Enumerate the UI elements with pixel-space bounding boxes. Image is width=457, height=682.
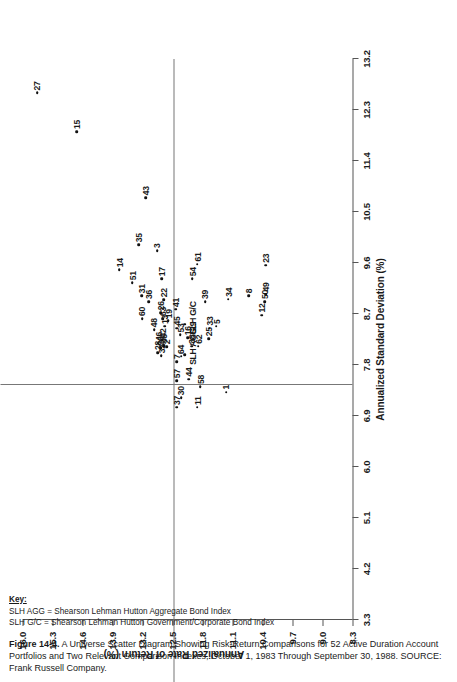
- data-point-label: 49: [261, 283, 270, 292]
- data-point: [214, 325, 217, 328]
- key-line-agg: SLH AGG = Shearson Lehman Hutton Aggrega…: [9, 607, 231, 616]
- data-point-label: 44: [184, 368, 193, 377]
- data-point-label: 48: [149, 318, 158, 327]
- data-point-label: 61: [193, 253, 202, 262]
- x-tick: [352, 58, 358, 59]
- data-point: [35, 92, 38, 95]
- data-point: [260, 314, 263, 317]
- x-tick-label: 8.7: [360, 308, 371, 321]
- x-tick: [352, 568, 358, 569]
- x-tick-label: 10.5: [360, 203, 371, 221]
- data-point: [118, 269, 121, 272]
- data-point: [226, 298, 229, 301]
- data-point-label: 2: [162, 340, 171, 344]
- data-point: [190, 278, 193, 281]
- data-point: [224, 391, 227, 394]
- data-point: [140, 295, 143, 298]
- data-point-label: 35: [134, 233, 143, 242]
- data-point-label: 12: [257, 304, 266, 313]
- x-tick-label: 3.3: [360, 614, 371, 627]
- data-point-label: 36: [144, 290, 153, 299]
- data-point: [207, 338, 210, 341]
- data-point: [187, 378, 190, 381]
- data-point: [179, 355, 182, 358]
- data-point: [175, 360, 178, 363]
- data-point: [264, 264, 267, 267]
- key-title: Key:: [9, 594, 274, 605]
- y-tick: [352, 620, 353, 626]
- x-tick-label: 13.2: [360, 50, 371, 68]
- data-point-label: 58: [196, 375, 205, 384]
- x-tick-label: 4.2: [360, 563, 371, 576]
- x-tick: [352, 415, 358, 416]
- data-point: [175, 380, 178, 383]
- x-tick: [352, 364, 358, 365]
- data-point: [208, 327, 211, 330]
- x-tick: [352, 466, 358, 467]
- data-point: [130, 282, 133, 285]
- data-point: [75, 130, 78, 133]
- data-point: [137, 244, 140, 247]
- x-tick: [352, 109, 358, 110]
- y-tick: [322, 620, 323, 626]
- data-point: [263, 300, 266, 303]
- data-point: [264, 293, 267, 296]
- data-point-label: 5: [212, 319, 221, 323]
- figure-caption-text: A Universe Scatter Diagram Showing Risk-…: [9, 639, 441, 673]
- scatter-plot-area: 2715145135314336036172248284632205642213…: [22, 59, 352, 620]
- data-point-label: 8: [244, 289, 253, 293]
- data-point-label: 42: [158, 329, 167, 338]
- data-point-label: 22: [159, 288, 168, 297]
- figure-number: Figure 14-4.: [9, 639, 60, 649]
- data-point-label: 27: [32, 81, 41, 90]
- data-point-label: 54: [188, 267, 197, 276]
- data-point-label: 41: [171, 298, 180, 307]
- data-point: [203, 300, 206, 303]
- data-point: [147, 300, 150, 303]
- x-tick-label: 11.4: [360, 152, 371, 169]
- x-tick: [352, 262, 358, 263]
- data-point: [196, 406, 199, 409]
- data-point-label: 34: [224, 288, 233, 297]
- data-point: [160, 355, 163, 358]
- x-tick-label: 6.9: [360, 410, 371, 423]
- x-tick: [352, 517, 358, 518]
- data-point: [159, 347, 162, 350]
- data-point: [183, 354, 186, 357]
- y-tick: [292, 620, 293, 626]
- x-tick: [352, 160, 358, 161]
- data-point: [163, 325, 166, 328]
- data-point-label: 23: [261, 254, 270, 263]
- data-point-label: 51: [128, 271, 137, 280]
- key-line-gc: SLH G/C = Shearson Lehman Hutton Governm…: [9, 618, 274, 627]
- data-point: [160, 278, 163, 281]
- data-point-label: 30: [176, 386, 185, 395]
- data-point: [165, 346, 168, 349]
- x-tick-label: 9.6: [360, 257, 371, 270]
- data-point: [247, 295, 250, 298]
- data-point: [140, 317, 143, 320]
- x-tick: [352, 313, 358, 314]
- data-point: [199, 385, 202, 388]
- data-point-label: 17: [157, 267, 166, 276]
- figure-caption: Figure 14-4. A Universe Scatter Diagram …: [9, 638, 449, 674]
- median-line-vertical: [0, 384, 352, 385]
- data-point: [152, 329, 155, 332]
- data-point-label: 39: [200, 290, 209, 299]
- data-point-label: SLH G/C: [188, 301, 197, 334]
- data-point: [183, 323, 186, 326]
- rotated-figure-container: 2715145135314336036172248284632205642213…: [0, 0, 457, 682]
- data-point: [155, 249, 158, 252]
- x-tick-label: 6.0: [360, 461, 371, 474]
- data-point-label: 11: [193, 396, 202, 404]
- data-point-label: 43: [141, 186, 150, 195]
- x-axis-title: Annualized Standard Deviation (%): [374, 59, 385, 620]
- data-point: [196, 263, 199, 266]
- x-tick-label: 12.3: [360, 101, 371, 119]
- data-point-label: 57: [172, 369, 181, 378]
- data-point-label: 60: [137, 307, 146, 316]
- data-point: [144, 197, 147, 200]
- data-point: [174, 308, 177, 311]
- data-point-label: 15: [72, 120, 81, 129]
- data-point-label: 1: [221, 385, 230, 389]
